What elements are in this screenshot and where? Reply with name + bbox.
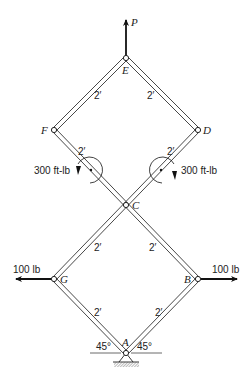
joint-g (51, 276, 56, 281)
right-moment-icon (149, 157, 177, 183)
joint-label-g: G (60, 273, 68, 285)
angle-label-right: 45° (137, 341, 152, 352)
joint-label-c: C (132, 199, 140, 211)
dim-label-ef: 2′ (94, 90, 102, 101)
dim-label-ba: 2′ (155, 307, 163, 318)
left-moment-label: 300 ft-lb (34, 165, 71, 176)
joint-e (123, 55, 128, 60)
joint-label-f: F (40, 124, 48, 136)
joint-c (123, 202, 128, 207)
member-ed (125, 57, 200, 132)
frame-diagram: P 100 lb 100 lb 300 ft-lb 300 ft-lb 2′ 2… (0, 0, 251, 389)
dim-label-ga: 2′ (94, 307, 102, 318)
left-force-label: 100 lb (13, 264, 41, 275)
dim-label-dc: 2′ (167, 146, 175, 157)
dim-label-cg: 2′ (94, 242, 102, 253)
joint-b (195, 276, 200, 281)
joint-f (51, 127, 56, 132)
angle-label-left: 45° (96, 341, 111, 352)
joint-label-e: E (121, 64, 129, 76)
ground-hatch (114, 362, 139, 367)
right-moment-label: 300 ft-lb (181, 165, 218, 176)
joint-label-b: B (184, 273, 191, 285)
dim-label-fc: 2′ (78, 146, 86, 157)
dim-label-ed: 2′ (147, 90, 155, 101)
joint-a (123, 350, 128, 355)
member-ga (53, 278, 128, 355)
joint-label-a: A (121, 336, 129, 348)
joint-d (195, 127, 200, 132)
load-p-label: P (130, 16, 138, 28)
joint-label-d: D (202, 124, 211, 136)
right-force-label: 100 lb (212, 264, 240, 275)
dim-label-cb: 2′ (149, 242, 157, 253)
member-ef (53, 57, 128, 132)
